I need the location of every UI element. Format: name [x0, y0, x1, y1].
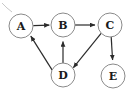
node-b[interactable]: B — [51, 13, 75, 37]
edge-a-to-b — [33, 25, 49, 26]
node-c[interactable]: C — [98, 13, 122, 37]
corner-artifact — [2, 3, 12, 12]
node-a[interactable]: A — [9, 14, 33, 38]
node-a-label: A — [16, 20, 26, 33]
node-d-label: D — [58, 69, 68, 82]
graph-figure: A B C D E — [0, 0, 132, 91]
edge-c-to-e — [111, 37, 112, 60]
node-e-label: E — [109, 70, 117, 83]
node-c-label: C — [106, 19, 115, 32]
node-layer: A B C D E — [9, 13, 125, 88]
node-d[interactable]: D — [51, 63, 75, 87]
node-e[interactable]: E — [101, 64, 125, 88]
edge-d-to-a — [31, 36, 52, 70]
edge-c-to-d — [73, 33, 101, 67]
node-b-label: B — [58, 19, 67, 32]
graph-canvas: A B C D E — [0, 0, 132, 91]
